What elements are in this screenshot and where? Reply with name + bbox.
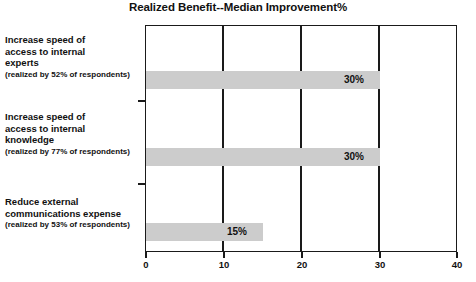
xtick-mark-2 (301, 252, 303, 258)
category-label-0-line-0: Increase speed of (5, 34, 142, 46)
xtick-mark-4 (456, 252, 458, 258)
xtick-mark-0 (145, 252, 147, 258)
category-label-1-line-1: access to internal (5, 123, 142, 135)
xtick-label-3: 30 (365, 259, 395, 270)
gridline-10 (222, 26, 224, 251)
category-label-0-sub: (realized by 52% of respondents) (5, 69, 142, 80)
category-label-1-line-0: Increase speed of (5, 111, 142, 123)
category-label-2-sub: (realized by 53% of respondents) (5, 219, 142, 230)
xtick-label-0: 0 (131, 259, 161, 270)
bar-value-2: 15% (227, 223, 247, 241)
category-label-1: Increase speed of access to internal kno… (5, 111, 145, 157)
chart-container: Realized Benefit--Median Improvement% In… (0, 0, 476, 282)
category-label-0-line-1: access to internal (5, 46, 142, 58)
xtick-mark-3 (379, 252, 381, 258)
category-label-2-line-1: communications expense (5, 208, 142, 220)
category-label-0: Increase speed of access to internal exp… (5, 34, 145, 80)
category-label-1-line-2: knowledge (5, 134, 142, 146)
gridline-30 (378, 26, 380, 251)
category-label-2-line-0: Reduce external (5, 196, 142, 208)
chart-title: Realized Benefit--Median Improvement% (0, 1, 476, 13)
plot-area: 30% 30% 15% (145, 25, 457, 252)
xtick-label-4: 40 (442, 259, 472, 270)
bar-value-0: 30% (344, 71, 364, 89)
bar-value-1: 30% (344, 148, 364, 166)
category-label-1-sub: (realized by 77% of respondents) (5, 146, 142, 157)
gridline-20 (300, 26, 302, 251)
xtick-label-1: 10 (209, 259, 239, 270)
category-label-0-line-2: experts (5, 57, 142, 69)
xtick-label-2: 20 (287, 259, 317, 270)
category-label-2: Reduce external communications expense (… (5, 196, 145, 230)
xtick-mark-1 (223, 252, 225, 258)
